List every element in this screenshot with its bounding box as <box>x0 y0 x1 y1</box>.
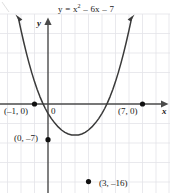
origin-label: 0 <box>51 107 56 116</box>
point-y-intercept <box>45 137 50 142</box>
label-vertex: (3, –16) <box>99 179 128 188</box>
x-axis-label: x <box>162 107 167 116</box>
scan-artifact <box>2 2 9 12</box>
equation-title-tail: – 6x – 7 <box>81 4 114 14</box>
parabola-plot <box>0 0 170 193</box>
grid-horizontal <box>0 14 170 182</box>
label-x-intercept-right: (7, 0) <box>118 107 138 116</box>
point-x-intercept-right <box>140 101 145 106</box>
point-vertex <box>86 179 91 184</box>
label-x-intercept-left: (–1, 0) <box>4 107 28 116</box>
point-x-intercept-left <box>32 101 37 106</box>
equation-title-lead: y = x <box>58 4 78 14</box>
equation-title: y = x2 – 6x – 7 <box>58 5 114 14</box>
label-y-intercept: (0, –7) <box>14 134 38 143</box>
y-axis-label: y <box>37 19 41 28</box>
graph-figure: y = x2 – 6x – 7 y x 0 (–1, 0) (7, 0) (0,… <box>0 0 170 193</box>
